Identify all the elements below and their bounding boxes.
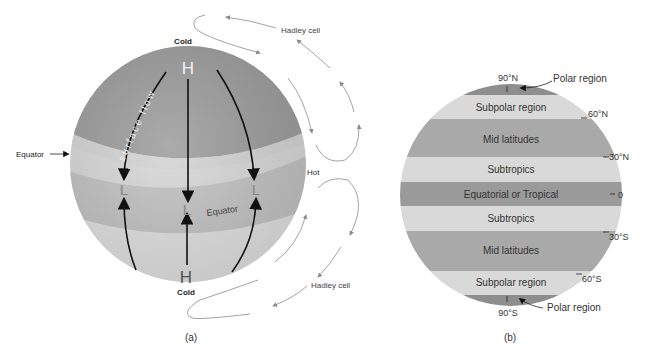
- hadley-arrow-bottom-return: [273, 286, 307, 306]
- hadley-arrow-equator-loop-lower: [318, 179, 359, 235]
- lat-30s: 30°S: [609, 232, 629, 242]
- lat-30n: 30°N: [609, 152, 629, 162]
- hot-label: Hot: [307, 168, 320, 177]
- band-label-subpolar-south: Subpolar region: [476, 277, 547, 288]
- band-label-subtropics-south: Subtropics: [487, 213, 534, 224]
- polar-region-south-label: Polar region: [547, 302, 601, 313]
- cold-bottom-label: Cold: [177, 288, 195, 297]
- low-pressure-right: L: [252, 181, 260, 198]
- lat-60s: 60°S: [582, 274, 602, 284]
- band-label-mid-south: Mid latitudes: [483, 245, 539, 256]
- band-label-equatorial: Equatorial or Tropical: [464, 189, 559, 200]
- high-pressure-bottom: H: [180, 268, 192, 287]
- panel-a-caption: (a): [185, 332, 197, 343]
- high-pressure-top: H: [182, 59, 194, 78]
- lat-0: 0: [618, 190, 623, 200]
- band-label-mid-north: Mid latitudes: [483, 134, 539, 145]
- cold-top-label: Cold: [174, 37, 192, 46]
- lat-90n: 90°N: [498, 73, 518, 83]
- panel-b-caption: (b): [504, 332, 516, 343]
- band-label-subtropics-north: Subtropics: [487, 164, 534, 175]
- hadley-arrow-bottom-loop: [188, 280, 259, 319]
- equator-outside-label: Equator: [16, 150, 44, 159]
- lat-60n: 60°N: [588, 109, 608, 119]
- low-pressure-left: L: [120, 181, 128, 198]
- globe-a: H H L L L surface flow Equator: [60, 40, 320, 300]
- band-label-subpolar-north: Subpolar region: [476, 102, 547, 113]
- hadley-cell-top-label: Hadley cell: [281, 26, 320, 35]
- hadley-arrow-top-return: [297, 40, 330, 68]
- lat-90s: 90°S: [498, 308, 518, 318]
- hadley-arrow-equator-loop-upper: [316, 125, 359, 161]
- hadley-cell-bottom-label: Hadley cell: [311, 281, 350, 290]
- figure-canvas: H H L L L surface flow Equator Cold Cold…: [0, 0, 646, 356]
- hadley-arrow-rise: [340, 82, 354, 112]
- polar-region-north-label: Polar region: [553, 73, 607, 84]
- low-pressure-center: L: [183, 201, 191, 218]
- hadley-arrow-top-upper: [226, 17, 276, 28]
- hadley-arrow-lower-descend: [318, 247, 341, 277]
